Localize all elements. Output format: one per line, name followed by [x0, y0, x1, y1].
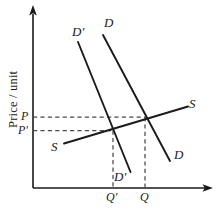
price-label-high: P: [21, 110, 28, 122]
demand-curve-D-shifted: [78, 42, 131, 172]
y-axis-arrowhead-icon: [29, 5, 37, 16]
curve-label-d-shifted-bottom: D': [114, 170, 126, 183]
supply-demand-figure: Price / unit D' D S S D D' P P' Q' Q: [0, 0, 217, 209]
supply-curve-S: [64, 107, 188, 144]
y-axis-title: Price / unit: [6, 71, 21, 128]
figure-canvas: [0, 0, 217, 209]
quantity-label-high: Q: [140, 191, 149, 203]
guide-line-group: [33, 117, 146, 188]
curve-label-d-shifted-top: D': [72, 25, 84, 38]
curve-label-s-right: S: [189, 97, 196, 110]
quantity-label-low: Q': [106, 191, 117, 203]
curve-label-d-bottom: D: [174, 148, 183, 161]
curve-label-s-left: S: [51, 140, 58, 153]
axis-group: [29, 5, 213, 192]
price-label-low: P': [18, 124, 28, 136]
curve-label-d-top: D: [104, 16, 113, 29]
curve-group: [64, 35, 188, 172]
